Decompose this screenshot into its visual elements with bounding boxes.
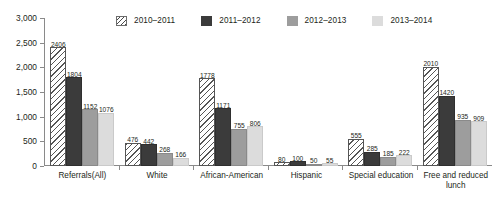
bar-cell: 476 bbox=[125, 143, 141, 166]
bar-group: 801005055 bbox=[269, 18, 344, 166]
bar[interactable]: 268 bbox=[157, 153, 173, 166]
bar-cell: 1171 bbox=[215, 108, 231, 166]
bar-value-label: 55 bbox=[326, 157, 333, 164]
bar-cell: 2010 bbox=[423, 67, 439, 166]
bar-value-label: 935 bbox=[457, 113, 468, 120]
bar-group: 20101420935909 bbox=[418, 18, 493, 166]
bar-cell: 1152 bbox=[82, 109, 98, 166]
bar-value-label: 1152 bbox=[83, 103, 97, 110]
x-axis-category-labels: Referrals(All)WhiteAfrican-AmericanHispa… bbox=[45, 171, 493, 191]
bar-cell: 935 bbox=[455, 120, 471, 166]
bar-cell: 80 bbox=[274, 162, 290, 166]
bar-value-label: 1076 bbox=[99, 106, 114, 113]
bar-value-label: 2010 bbox=[423, 60, 438, 67]
x-axis-category-label: Hispanic bbox=[269, 171, 344, 191]
bar[interactable]: 806 bbox=[247, 126, 263, 166]
y-axis-tick-label: 2,500 bbox=[16, 38, 37, 48]
bar-value-label: 806 bbox=[250, 120, 261, 127]
bar-cell: 1778 bbox=[199, 78, 215, 166]
bar[interactable]: 2010 bbox=[423, 67, 439, 166]
y-axis-tick-label: 500 bbox=[23, 136, 37, 146]
bar-group-bars: 801005055 bbox=[274, 18, 338, 166]
bar-cell: 1804 bbox=[66, 77, 82, 166]
bar-value-label: 555 bbox=[351, 132, 362, 139]
bar-group-bars: 555285185222 bbox=[348, 18, 412, 166]
y-axis-tick-label: 0 bbox=[32, 161, 37, 171]
bar-group-bars: 17781171755806 bbox=[199, 18, 263, 166]
x-axis-category-label: Special education bbox=[344, 171, 419, 191]
bar-group: 17781171755806 bbox=[194, 18, 269, 166]
bar-cell: 806 bbox=[247, 126, 263, 166]
bar-value-label: 50 bbox=[310, 157, 317, 164]
bar[interactable]: 285 bbox=[364, 152, 380, 166]
x-axis-group-separator-tick bbox=[268, 166, 269, 170]
bar[interactable]: 1778 bbox=[199, 78, 215, 166]
bar[interactable]: 1420 bbox=[439, 96, 455, 166]
bar-value-label: 476 bbox=[127, 136, 138, 143]
bar-cell: 222 bbox=[396, 155, 412, 166]
x-axis-group-separator-tick bbox=[417, 166, 418, 170]
bar-chart: 2010–2011 2011–2012 2012–2013 2013–2014 … bbox=[0, 0, 500, 198]
x-axis-category-label: Free and reduced lunch bbox=[418, 171, 493, 191]
bar-group: 555285185222 bbox=[343, 18, 418, 166]
y-axis-tick-label: 1,500 bbox=[16, 87, 37, 97]
bar-cell: 909 bbox=[471, 121, 487, 166]
bar[interactable]: 185 bbox=[380, 157, 396, 166]
bar-value-label: 442 bbox=[143, 138, 154, 145]
bar-cell: 755 bbox=[231, 129, 247, 166]
y-axis-tick-label: 3,000 bbox=[16, 13, 37, 23]
bar-value-label: 80 bbox=[278, 156, 285, 163]
x-axis-group-separator-tick bbox=[119, 166, 120, 170]
bar[interactable]: 1152 bbox=[82, 109, 98, 166]
bar-value-label: 222 bbox=[399, 149, 410, 156]
bar[interactable]: 50 bbox=[306, 164, 322, 166]
bar[interactable]: 222 bbox=[396, 155, 412, 166]
bar-value-label: 1420 bbox=[439, 89, 454, 96]
x-axis-group-separator-tick bbox=[342, 166, 343, 170]
bar-cell: 50 bbox=[306, 164, 322, 166]
bar[interactable]: 935 bbox=[455, 120, 471, 166]
y-axis-tick-mark bbox=[40, 166, 44, 167]
bar[interactable]: 55 bbox=[322, 163, 338, 166]
bar-cell: 285 bbox=[364, 152, 380, 166]
bar[interactable]: 755 bbox=[231, 129, 247, 166]
bar-value-label: 185 bbox=[383, 150, 394, 157]
bar[interactable]: 555 bbox=[348, 139, 364, 166]
y-axis-tick-label: 1,000 bbox=[16, 112, 37, 122]
bar[interactable]: 909 bbox=[471, 121, 487, 166]
x-axis-category-label: African-American bbox=[194, 171, 269, 191]
bar[interactable]: 442 bbox=[141, 144, 157, 166]
bar[interactable]: 476 bbox=[125, 143, 141, 166]
bar[interactable]: 166 bbox=[173, 158, 189, 166]
bar-group-bars: 20101420935909 bbox=[423, 18, 487, 166]
y-axis-tick-mark bbox=[40, 67, 44, 68]
bar-group: 476442268166 bbox=[120, 18, 195, 166]
y-axis-tick-mark bbox=[40, 18, 44, 19]
bar[interactable]: 100 bbox=[290, 161, 306, 166]
bar[interactable]: 1171 bbox=[215, 108, 231, 166]
bar-cell: 555 bbox=[348, 139, 364, 166]
bar-value-label: 268 bbox=[159, 146, 170, 153]
x-axis-category-label: Referrals(All) bbox=[45, 171, 120, 191]
bar[interactable]: 80 bbox=[274, 162, 290, 166]
y-axis-tick-label: 2,000 bbox=[16, 62, 37, 72]
bar-groups: 2406180411521076476442268166177811717558… bbox=[45, 18, 492, 166]
bar-value-label: 1171 bbox=[216, 102, 230, 109]
bar-cell: 55 bbox=[322, 163, 338, 166]
bar[interactable]: 2406 bbox=[50, 47, 66, 166]
bar-cell: 100 bbox=[290, 161, 306, 166]
bar-group-bars: 476442268166 bbox=[125, 18, 189, 166]
bar-cell: 442 bbox=[141, 144, 157, 166]
bar[interactable]: 1804 bbox=[66, 77, 82, 166]
bar-cell: 2406 bbox=[50, 47, 66, 166]
y-axis-tick-mark bbox=[40, 92, 44, 93]
bar-cell: 1420 bbox=[439, 96, 455, 166]
y-axis-tick-mark bbox=[40, 43, 44, 44]
bar-value-label: 1804 bbox=[67, 71, 82, 78]
bar-value-label: 909 bbox=[473, 115, 484, 122]
bar-value-label: 1778 bbox=[200, 72, 215, 79]
x-axis-group-separator-tick bbox=[193, 166, 194, 170]
bar-value-label: 755 bbox=[234, 122, 245, 129]
bar-group: 2406180411521076 bbox=[45, 18, 120, 166]
bar[interactable]: 1076 bbox=[98, 113, 114, 166]
